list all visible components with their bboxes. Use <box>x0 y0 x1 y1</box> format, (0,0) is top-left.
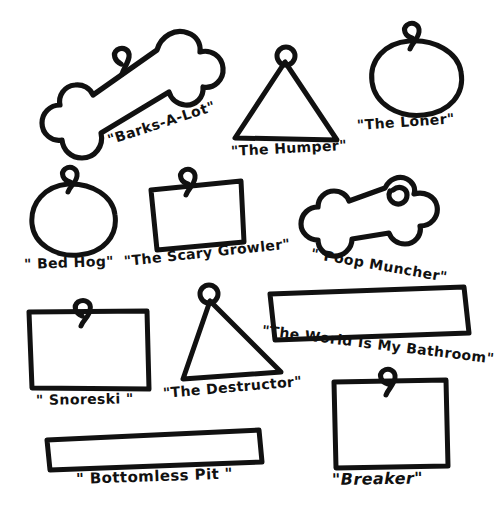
tag-label-breaker: "Breaker" <box>332 468 423 489</box>
tag-label-bed-hog: " Bed Hog" <box>24 253 114 272</box>
tag-label-snoreski: " Snoreski " <box>36 390 134 408</box>
